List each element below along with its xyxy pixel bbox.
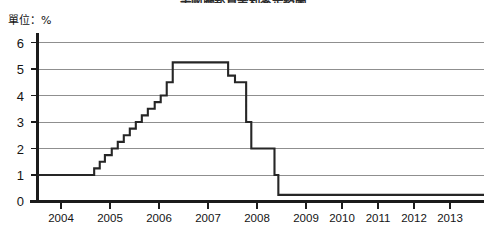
x-tick-label-2011: 2011 [366,212,391,224]
x-tick-label-2007: 2007 [195,212,221,224]
x-tick-label-2006: 2006 [146,212,172,224]
y-tick-label-2: 2 [17,142,24,157]
y-tick-label-0: 0 [17,194,24,209]
y-tick-marks [31,43,37,176]
y-tick-label-5: 5 [17,62,24,77]
x-tick-label-2005: 2005 [97,212,123,224]
line-chart-plot: 0 1 2 3 4 5 6 2004 2005 2006 2007 [0,0,486,245]
y-tick-label-3: 3 [17,115,24,130]
x-tick-label-2013: 2013 [437,212,463,224]
x-tick-label-2010: 2010 [329,212,355,224]
y-tick-label-1: 1 [17,168,24,183]
y-tick-label-4: 4 [17,89,24,104]
x-tick-label-2012: 2012 [401,212,427,224]
x-tick-labels: 2004 2005 2006 2007 2008 2009 2010 2011 … [48,212,463,224]
y-tick-label-6: 6 [17,36,24,51]
chart-container: 美國聯邦資金利率走勢圖 單位：% 0 1 2 [0,0,486,245]
y-tick-labels: 0 1 2 3 4 5 6 [17,36,24,210]
x-tick-label-2009: 2009 [293,212,319,224]
x-tick-label-2004: 2004 [48,212,74,224]
x-tick-marks [61,202,450,209]
x-tick-label-2008: 2008 [244,212,270,224]
